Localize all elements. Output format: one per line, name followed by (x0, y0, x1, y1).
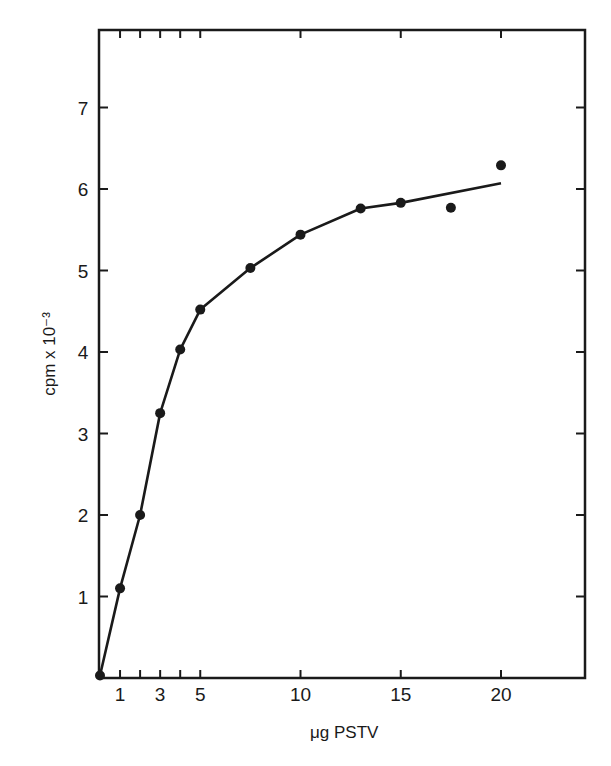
y-axis-ticks: 1234567 (78, 98, 585, 608)
data-point-marker (135, 510, 145, 520)
y-tick-label: 2 (78, 505, 89, 526)
x-tick-label: 1 (115, 684, 126, 705)
data-point-marker (356, 204, 366, 214)
y-tick-label: 6 (78, 179, 89, 200)
data-points (95, 160, 506, 680)
data-point-marker (446, 203, 456, 213)
data-point-marker (496, 160, 506, 170)
data-point-marker (115, 583, 125, 593)
fitted-curve (100, 183, 501, 675)
x-tick-label: 15 (390, 684, 411, 705)
y-tick-label: 7 (78, 98, 89, 119)
y-tick-label: 4 (78, 342, 89, 363)
data-point-marker (296, 230, 306, 240)
data-point-marker (95, 671, 105, 681)
y-tick-label: 3 (78, 424, 89, 445)
y-tick-label: 1 (78, 587, 89, 608)
x-tick-label: 5 (195, 684, 206, 705)
curve-line (100, 183, 501, 675)
data-point-marker (195, 305, 205, 315)
y-tick-label: 5 (78, 261, 89, 282)
data-point-marker (396, 198, 406, 208)
plot-frame (99, 30, 585, 678)
chart: 135101520 1234567 μg PSTV cpm x 10⁻³ (0, 0, 611, 766)
x-tick-label: 20 (490, 684, 511, 705)
x-tick-label: 10 (290, 684, 311, 705)
data-point-marker (175, 345, 185, 355)
data-point-marker (155, 408, 165, 418)
y-axis-label: cpm x 10⁻³ (40, 312, 59, 396)
data-point-marker (245, 263, 255, 273)
x-axis-label: μg PSTV (310, 723, 379, 742)
x-tick-label: 3 (155, 684, 166, 705)
